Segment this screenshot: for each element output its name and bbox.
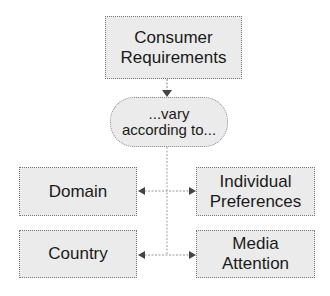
node-media-attention: Media Attention <box>196 230 315 278</box>
node-country: Country <box>19 230 137 278</box>
arrowhead-left-icon <box>138 251 145 259</box>
node-individual-preferences: Individual Preferences <box>196 167 315 216</box>
node-label: ...vary according to... <box>122 106 216 139</box>
node-label: Consumer Requirements <box>121 28 227 67</box>
node-consumer-requirements: Consumer Requirements <box>105 16 242 79</box>
node-label: Domain <box>49 182 108 202</box>
node-domain: Domain <box>19 167 137 216</box>
arrowhead-left-icon <box>138 187 145 195</box>
arrowhead-right-icon <box>189 251 196 259</box>
node-label: Individual Preferences <box>210 172 302 211</box>
arrowhead-right-icon <box>189 187 196 195</box>
node-label: Country <box>48 244 108 264</box>
node-label: Media Attention <box>222 234 289 273</box>
arrowhead-down-icon <box>162 90 172 97</box>
node-vary-according-to: ...vary according to... <box>110 97 228 147</box>
